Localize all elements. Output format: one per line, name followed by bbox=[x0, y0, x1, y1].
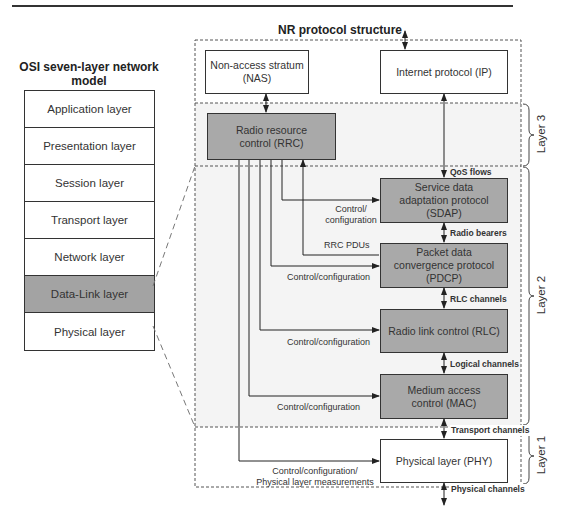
logical-channels-label: Logical channels bbox=[450, 359, 519, 370]
rlc-box: Radio link control (RLC) bbox=[380, 309, 508, 353]
mac-label: Medium access control (MAC) bbox=[395, 384, 493, 410]
rlc-channels-label: RLC channels bbox=[450, 294, 507, 305]
phy-control-line2: Physical layer measurements bbox=[250, 477, 380, 488]
phy-control-label: Control/configuration/ Physical layer me… bbox=[250, 466, 380, 488]
ip-label: Internet protocol (IP) bbox=[396, 66, 492, 79]
sdap-control-label: Control/ configuration bbox=[323, 204, 379, 226]
phy-box: Physical layer (PHY) bbox=[380, 439, 508, 483]
rrc-box: Radio resource control (RRC) bbox=[207, 113, 336, 160]
layer-1-label: Layer 1 bbox=[535, 436, 547, 474]
pdcp-label: Packet data convergence protocol (PDCP) bbox=[393, 246, 495, 285]
sdap-label: Service data adaptation protocol (SDAP) bbox=[391, 181, 497, 220]
physical-channels-label: Physical channels bbox=[450, 484, 526, 495]
rrc-pdus-label: RRC PDUs bbox=[324, 240, 370, 251]
ip-box: Internet protocol (IP) bbox=[380, 50, 508, 94]
pdcp-control-label: Control/configuration bbox=[287, 272, 370, 283]
pdcp-box: Packet data convergence protocol (PDCP) bbox=[380, 243, 508, 288]
rrc-label: Radio resource control (RRC) bbox=[228, 124, 315, 150]
layer-2-label: Layer 2 bbox=[535, 276, 547, 314]
mac-box: Medium access control (MAC) bbox=[380, 374, 508, 419]
layer-3-label: Layer 3 bbox=[535, 115, 547, 153]
nas-box: Non-access stratum (NAS) bbox=[205, 50, 309, 94]
radio-bearers-label: Radio bearers bbox=[450, 228, 507, 239]
rlc-label: Radio link control (RLC) bbox=[388, 325, 499, 338]
phy-control-line1: Control/configuration/ bbox=[250, 466, 380, 477]
transport-channels-label: Transport channels bbox=[450, 425, 530, 436]
phy-label: Physical layer (PHY) bbox=[396, 455, 492, 468]
rlc-control-label: Control/configuration bbox=[287, 337, 370, 348]
sdap-box: Service data adaptation protocol (SDAP) bbox=[380, 178, 508, 223]
mac-control-label: Control/configuration bbox=[277, 402, 360, 413]
qos-flows-label: QoS flows bbox=[450, 167, 492, 178]
nr-title: NR protocol structure bbox=[260, 23, 420, 37]
nas-label: Non-access stratum (NAS) bbox=[206, 59, 308, 85]
